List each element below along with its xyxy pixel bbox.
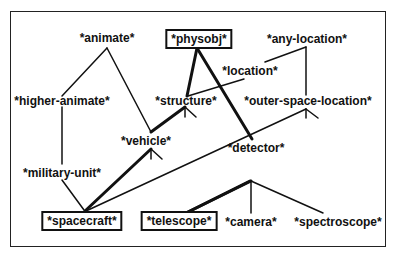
edge-telescope-to-detector-apex [186,181,251,213]
node-telescope: *telescope* [141,211,218,231]
node-location: *location* [222,65,277,77]
node-spectroscope: *spectroscope* [294,216,381,228]
arrow-tick-structure-b [185,107,196,117]
edge-spacecraft-military-unit [62,180,84,210]
edge-telescope-detector-2 [250,157,251,181]
arrow-tick-vehicle-b [151,149,162,159]
node-animate: *animate* [80,32,135,44]
edge-spacecraft-vehicle [85,149,151,211]
arrow-tick-outer-space-b [306,109,318,118]
node-physobj: *physobj* [165,29,232,49]
node-outer-space-location: *outer-space-location* [244,95,371,107]
node-higher-animate: *higher-animate* [14,95,109,107]
edge-higher-animate-animate [62,48,107,96]
node-structure: *structure* [155,95,216,107]
node-vehicle: *vehicle* [121,135,171,147]
node-camera: *camera* [225,216,276,228]
edge-structure-physobj [187,48,197,96]
edge-location-any-location [265,47,306,62]
concept-hierarchy-diagram: *animate* *physobj* *any-location* *loca… [0,0,395,256]
edge-spectroscope-detector [251,181,323,213]
edge-spacecraft-outer-space-location [86,109,306,211]
node-detector: *detector* [228,142,285,154]
edge-vehicle-animate [107,48,151,132]
node-spacecraft: *spacecraft* [41,211,122,231]
node-military-unit: *military-unit* [23,167,101,179]
node-any-location: *any-location* [267,33,347,45]
edge-vehicle-structure [151,107,185,132]
